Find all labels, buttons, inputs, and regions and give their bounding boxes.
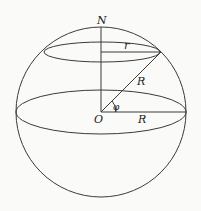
equator-radius-label: R [137,113,146,126]
north-label: N [96,14,107,27]
sphere-diagram: N r R O φ R [0,0,201,211]
angle-label: φ [113,102,120,112]
slant-radius-label: R [136,75,145,88]
center-label: O [94,113,103,126]
small-radius-label: r [124,39,130,52]
